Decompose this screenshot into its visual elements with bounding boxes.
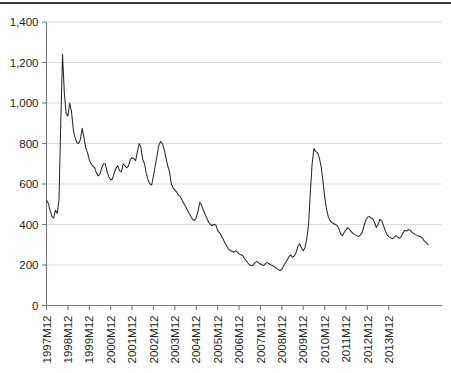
x-axis-tick-label: 1997M12	[41, 316, 53, 364]
x-axis-tick-label: 2011M12	[340, 316, 352, 363]
x-axis-tick-label: 1999M12	[83, 316, 95, 364]
plot-area-wrapper: 02004006008001,0001,2001,400 1997M121998…	[0, 0, 451, 373]
chart-figure: 02004006008001,0001,2001,400 1997M121998…	[0, 0, 451, 373]
x-axis-tick-label: 2013M12	[383, 316, 395, 364]
y-axis-tick-label: 200	[19, 259, 38, 271]
y-axis-tick-label: 600	[19, 178, 38, 190]
x-axis-tick-label: 2002M12	[148, 316, 160, 364]
x-axis-tick-label: 2008M12	[276, 316, 288, 364]
y-axis-tick-group	[42, 22, 47, 306]
x-axis-tick-label: 2009M12	[297, 316, 309, 364]
line-chart-svg: 02004006008001,0001,2001,400 1997M121998…	[0, 0, 451, 373]
x-axis-tick-label: 2005M12	[212, 316, 224, 364]
data-series-line	[47, 54, 429, 270]
y-axis-tick-label: 1,400	[10, 16, 39, 28]
x-axis-tick-label: 2000M12	[105, 316, 117, 364]
y-axis-tick-label: 400	[19, 219, 38, 231]
x-axis-tick-group	[47, 306, 389, 311]
y-axis-tick-label: 0	[32, 300, 38, 312]
y-axis-tick-label: 800	[19, 138, 38, 150]
x-axis-tick-label: 2007M12	[255, 316, 267, 364]
y-axis-tick-label: 1,200	[10, 57, 39, 69]
x-axis-tick-label: 2003M12	[169, 316, 181, 364]
y-axis-labels-group: 02004006008001,0001,2001,400	[10, 16, 39, 312]
x-axis-tick-label: 2012M12	[362, 316, 374, 364]
x-axis-tick-label: 2001M12	[126, 316, 138, 364]
gridlines-group	[47, 22, 443, 265]
x-axis-tick-label: 2004M12	[190, 316, 202, 364]
x-axis-tick-label: 2010M12	[319, 316, 331, 364]
x-axis-tick-label: 1998M12	[62, 316, 74, 364]
x-axis-tick-label: 2006M12	[233, 316, 245, 364]
x-axis-labels-group: 1997M121998M121999M122000M122001M122002M…	[41, 316, 395, 364]
y-axis-tick-label: 1,000	[10, 97, 39, 109]
